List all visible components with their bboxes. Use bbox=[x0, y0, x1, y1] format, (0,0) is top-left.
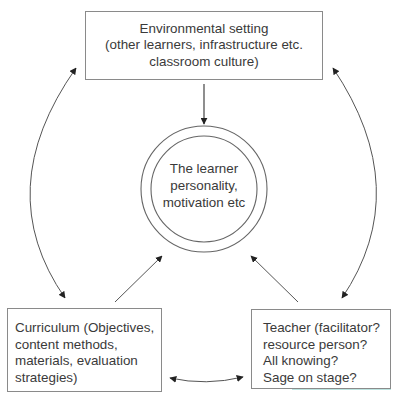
arrow-environment-curriculum bbox=[30, 68, 76, 298]
learner-node-label: The learner personality, motivation etc bbox=[154, 160, 254, 211]
teacher-line-1: Teacher (facilitator? bbox=[263, 320, 390, 337]
teacher-line-3: All knowing? bbox=[263, 353, 390, 370]
curriculum-box: Curriculum (Objectives, content methods,… bbox=[7, 308, 162, 392]
teacher-box: Teacher (facilitator? resource person? A… bbox=[251, 309, 391, 389]
teacher-line-2: resource person? bbox=[263, 337, 390, 354]
arrow-environment-teacher bbox=[333, 68, 376, 298]
arrow-teacher-to-learner bbox=[251, 256, 298, 302]
learner-line-2: personality, bbox=[154, 177, 254, 194]
curriculum-line-3: materials, evaluation bbox=[15, 353, 161, 370]
curriculum-line-4: strategies) bbox=[15, 370, 161, 387]
teacher-line-4: Sage on stage? bbox=[263, 370, 390, 387]
learner-line-1: The learner bbox=[154, 160, 254, 177]
environment-line-2: (other learners, infrastructure etc. bbox=[86, 37, 322, 54]
arrow-curriculum-to-learner bbox=[115, 256, 162, 302]
environmental-setting-box: Environmental setting (other learners, i… bbox=[85, 11, 323, 80]
environment-line-1: Environmental setting bbox=[86, 21, 322, 38]
curriculum-line-2: content methods, bbox=[15, 337, 161, 354]
environment-line-3: classroom culture) bbox=[86, 54, 322, 71]
curriculum-line-1: Curriculum (Objectives, bbox=[15, 320, 161, 337]
learner-line-3: motivation etc bbox=[154, 194, 254, 211]
arrow-curriculum-teacher bbox=[170, 377, 243, 382]
